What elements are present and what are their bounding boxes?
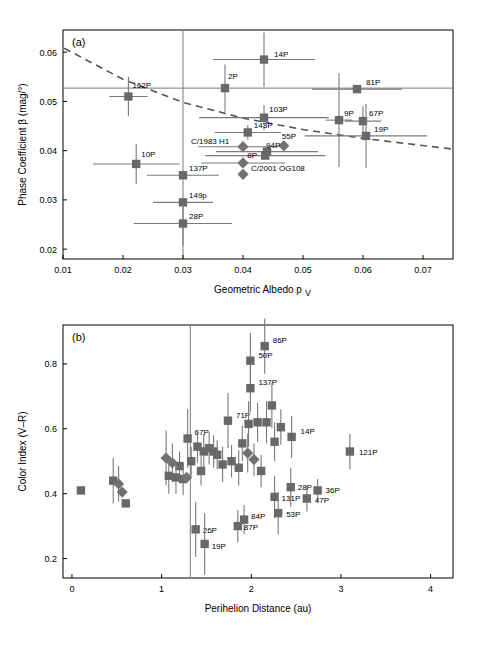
x-tick-label-6: 0.07 bbox=[414, 265, 432, 275]
point-label: 86P bbox=[273, 336, 287, 345]
point-label: 137P bbox=[189, 164, 208, 173]
data-point: 10P bbox=[93, 144, 179, 183]
data-point bbox=[122, 499, 130, 507]
data-point bbox=[187, 447, 195, 476]
square-marker bbox=[187, 457, 195, 465]
data-point: 19P bbox=[200, 513, 225, 575]
square-marker bbox=[124, 92, 132, 100]
data-point: 81P bbox=[312, 78, 402, 93]
square-marker bbox=[246, 384, 254, 392]
square-marker bbox=[313, 486, 321, 494]
square-marker bbox=[268, 401, 276, 409]
point-label: 19P bbox=[374, 125, 388, 134]
point-label: 19P bbox=[212, 542, 226, 551]
square-marker bbox=[165, 472, 173, 480]
square-marker bbox=[262, 418, 270, 426]
y-tick-label-3: 0.8 bbox=[44, 359, 57, 369]
panel-b: (b)012340.20.40.60.8Perihelion Distance … bbox=[17, 319, 453, 614]
square-marker bbox=[257, 467, 265, 475]
data-point bbox=[227, 445, 235, 477]
x-tick-label-4: 0.05 bbox=[294, 265, 312, 275]
y-tick-label-1: 0.03 bbox=[39, 195, 57, 205]
square-marker bbox=[234, 522, 242, 530]
point-label: 84P bbox=[251, 512, 265, 521]
square-marker bbox=[197, 467, 205, 475]
point-label: 50P bbox=[258, 351, 272, 360]
data-point: 19P bbox=[305, 104, 427, 168]
x-tick-label-3: 3 bbox=[338, 584, 343, 594]
square-marker bbox=[270, 438, 278, 446]
panel-letter-a: (a) bbox=[72, 36, 85, 48]
square-marker bbox=[303, 494, 311, 502]
square-marker bbox=[175, 462, 183, 470]
point-label: 67P bbox=[195, 428, 209, 437]
y-tick-label-0: 0.2 bbox=[44, 554, 57, 564]
square-marker bbox=[260, 55, 268, 63]
square-marker bbox=[172, 473, 180, 481]
square-marker bbox=[261, 342, 269, 350]
square-marker bbox=[221, 84, 229, 92]
point-label: 9P bbox=[344, 109, 354, 118]
scatter-figure: (a)0.010.020.030.040.050.060.070.020.030… bbox=[0, 0, 482, 651]
trend-curve bbox=[64, 48, 453, 149]
square-marker bbox=[346, 447, 354, 455]
point-label: C/1983 H1 bbox=[191, 137, 230, 146]
square-marker bbox=[287, 433, 295, 441]
square-marker bbox=[227, 457, 235, 465]
square-marker bbox=[200, 540, 208, 548]
y-tick-label-0: 0.02 bbox=[39, 245, 57, 255]
x-tick-label-1: 0.02 bbox=[114, 265, 132, 275]
square-marker bbox=[261, 151, 269, 159]
diamond-marker bbox=[237, 169, 248, 180]
square-marker bbox=[244, 420, 252, 428]
point-label: 8P bbox=[247, 151, 257, 160]
square-marker bbox=[122, 499, 130, 507]
point-label: 53P bbox=[286, 510, 300, 519]
x-tick-label-1: 1 bbox=[159, 584, 164, 594]
panel-a: (a)0.010.020.030.040.050.060.070.020.030… bbox=[17, 30, 453, 298]
x-tick-label-0: 0.01 bbox=[54, 265, 72, 275]
y-axis-title: Color Index (V–R) bbox=[17, 411, 28, 491]
square-marker bbox=[213, 451, 221, 459]
square-marker bbox=[183, 434, 191, 442]
data-point bbox=[237, 169, 248, 180]
data-point bbox=[109, 458, 117, 503]
plot-frame bbox=[63, 30, 453, 259]
y-tick-label-4: 0.06 bbox=[39, 48, 57, 58]
square-marker bbox=[246, 356, 254, 364]
square-marker bbox=[274, 509, 282, 517]
point-label: 14P bbox=[301, 427, 315, 436]
square-marker bbox=[132, 160, 140, 168]
data-point: 28P bbox=[134, 201, 232, 245]
square-marker bbox=[235, 464, 243, 472]
y-axis-title: Phase Coefficient β (mag/°) bbox=[17, 83, 28, 205]
x-tick-label-3: 0.04 bbox=[234, 265, 252, 275]
data-point: 121P bbox=[346, 434, 378, 470]
square-marker bbox=[270, 493, 278, 501]
square-marker bbox=[191, 525, 199, 533]
square-marker bbox=[353, 85, 361, 93]
data-point: 14P bbox=[287, 416, 314, 458]
point-label: 149p bbox=[189, 191, 207, 200]
x-tick-label-4: 4 bbox=[428, 584, 433, 594]
point-label: 2P bbox=[228, 72, 238, 81]
point-label: 103P bbox=[269, 105, 288, 114]
x-tick-label-2: 0.03 bbox=[174, 265, 192, 275]
point-label: 28P bbox=[298, 483, 312, 492]
point-label: 28P bbox=[189, 212, 203, 221]
figure-container: (a)0.010.020.030.040.050.060.070.020.030… bbox=[0, 0, 482, 651]
square-marker bbox=[77, 486, 85, 494]
square-marker bbox=[244, 128, 252, 136]
data-point bbox=[253, 403, 261, 442]
x-axis-title: Perihelion Distance (au) bbox=[205, 603, 312, 614]
x-tick-label-2: 2 bbox=[249, 584, 254, 594]
point-label: 47P bbox=[315, 496, 329, 505]
point-label: 137P bbox=[258, 378, 277, 387]
data-point bbox=[77, 486, 85, 494]
point-label: 143P bbox=[254, 121, 273, 130]
point-label: 55P bbox=[282, 132, 296, 141]
point-label: 36P bbox=[326, 486, 340, 495]
panel-letter-b: (b) bbox=[72, 331, 85, 343]
point-label: 87P bbox=[244, 523, 258, 532]
x-axis-subscript: V bbox=[305, 288, 311, 298]
